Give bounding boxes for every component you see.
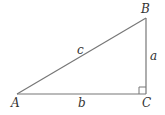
vertex-label-a: A bbox=[10, 96, 20, 110]
vertex-label-c: C bbox=[142, 96, 151, 110]
right-angle-marker bbox=[139, 87, 146, 94]
triangle-diagram: B C A a b c bbox=[0, 0, 165, 115]
side-label-a: a bbox=[150, 49, 157, 63]
side-label-b: b bbox=[78, 96, 86, 110]
vertex-label-b: B bbox=[140, 2, 150, 16]
side-label-c: c bbox=[77, 43, 84, 57]
